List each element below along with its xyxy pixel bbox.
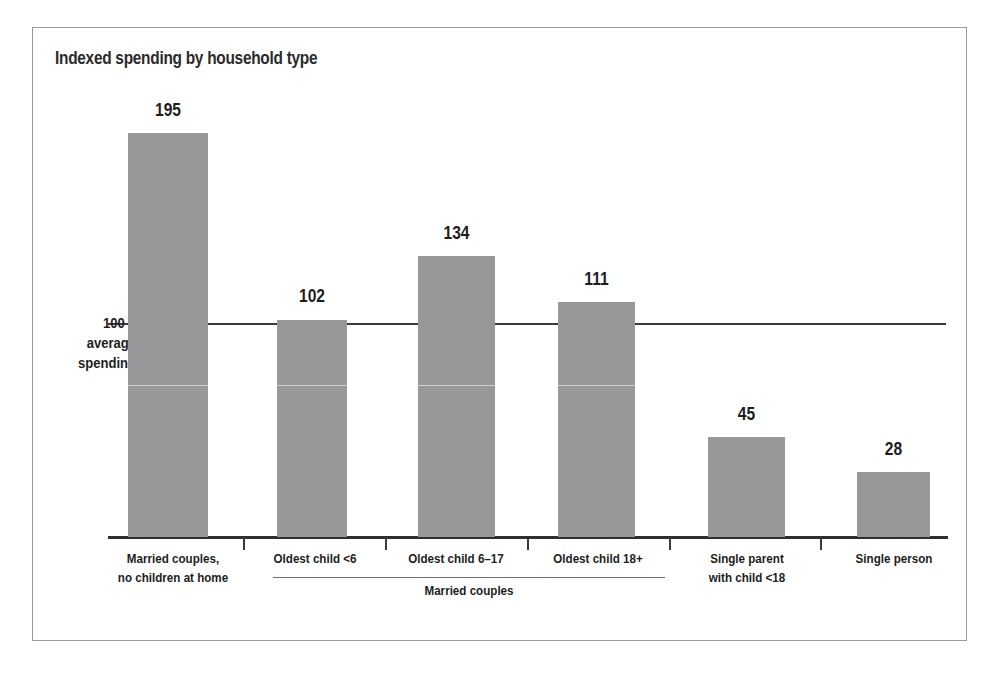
chart-page: Indexed spending by household type 100 =… [0, 0, 984, 675]
bar-value-label: 134 [425, 222, 488, 244]
category-label-line: Oldest child <6 [274, 551, 357, 566]
plot-area: 100 = average spending 195 102 134 111 4… [0, 0, 984, 675]
category-label-single-person: Single person [834, 549, 954, 568]
category-label-line: no children at home [118, 570, 228, 585]
bar-oldest-child-under-6 [277, 320, 347, 537]
axis-tick [669, 538, 671, 550]
category-label-line: Oldest child 18+ [553, 551, 642, 566]
category-label-line: Oldest child 6–17 [408, 551, 504, 566]
bar-single-parent-child-under-18 [708, 437, 785, 537]
bar-single-person [857, 472, 930, 537]
category-label-oldest-child-18-plus: Oldest child 18+ [540, 549, 657, 568]
category-label-line: with child <18 [709, 570, 785, 585]
y-axis-reference-label: 100 = average spending [53, 313, 136, 373]
axis-tick [527, 538, 529, 550]
bar-value-label: 28 [864, 438, 924, 460]
bar-married-no-children [128, 133, 208, 537]
bar-value-label: 111 [565, 268, 628, 290]
axis-tick [243, 538, 245, 550]
group-bracket-line [273, 577, 665, 578]
category-label-married-no-children: Married couples, no children at home [109, 549, 238, 587]
bar-value-label: 102 [283, 285, 340, 307]
reference-line-100 [108, 323, 946, 325]
category-label-oldest-child-under-6: Oldest child <6 [257, 549, 374, 568]
category-label-line: Single parent [710, 551, 784, 566]
y-axis-label-line-2: average [53, 333, 136, 353]
category-label-line: Single person [856, 551, 933, 566]
bar-value-label: 45 [715, 403, 778, 425]
axis-tick [820, 538, 822, 550]
category-label-line: Married couples, [127, 551, 219, 566]
bar-value-label: 195 [135, 99, 201, 121]
bar-oldest-child-6-17 [418, 256, 495, 537]
bar-oldest-child-18-plus [558, 302, 635, 537]
category-label-oldest-child-6-17: Oldest child 6–17 [398, 549, 515, 568]
scan-artifact-line [128, 385, 636, 386]
category-label-single-parent: Single parent with child <18 [686, 549, 808, 587]
y-axis-label-line-1: 100 = [53, 313, 136, 333]
group-bracket-label: Married couples [300, 583, 637, 598]
axis-tick [385, 538, 387, 550]
y-axis-label-line-3: spending [53, 353, 136, 373]
